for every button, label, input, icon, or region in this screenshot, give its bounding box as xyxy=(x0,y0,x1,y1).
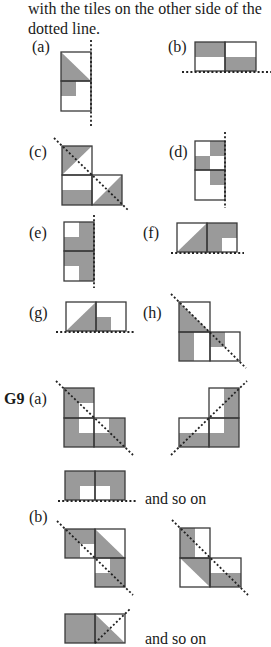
tile-reflection-figures xyxy=(0,0,271,647)
figure-a xyxy=(61,40,91,127)
figure-d xyxy=(195,132,225,208)
figure-g9b-left xyxy=(57,521,133,595)
shaded-region xyxy=(177,223,207,252)
shaded-region xyxy=(62,190,92,205)
shaded-region xyxy=(95,529,125,558)
shaded-region xyxy=(207,223,237,252)
shaded-region xyxy=(210,141,225,156)
figure-g9a-left xyxy=(56,381,133,455)
shaded-region xyxy=(195,156,210,170)
shaded-region xyxy=(96,317,111,331)
figure-f xyxy=(171,223,244,253)
shaded-region xyxy=(61,52,91,81)
figure-g9a-right xyxy=(171,381,247,455)
figure-g9a-strip xyxy=(58,471,137,501)
shaded-region xyxy=(65,614,95,643)
figure-e xyxy=(64,215,94,288)
shaded-region xyxy=(225,57,256,71)
shaded-region xyxy=(180,528,195,558)
figure-h xyxy=(171,294,246,368)
figure-g xyxy=(56,302,134,332)
shaded-region xyxy=(210,170,225,185)
shaded-region xyxy=(61,81,76,96)
figure-b xyxy=(182,42,271,72)
shaded-region xyxy=(179,332,194,361)
shaded-region xyxy=(66,302,96,331)
shaded-region xyxy=(195,42,225,57)
figure-g9b-strip xyxy=(65,609,130,643)
shaded-region xyxy=(210,573,241,587)
figure-g9b-right xyxy=(172,520,248,595)
shaded-region xyxy=(180,558,210,587)
figure-c xyxy=(54,138,128,210)
